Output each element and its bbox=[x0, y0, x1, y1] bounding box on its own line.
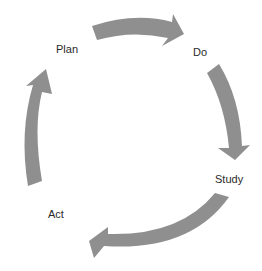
cycle-arrows bbox=[0, 0, 262, 271]
stage-label-act: Act bbox=[48, 208, 64, 220]
arrow-act-to-plan bbox=[24, 69, 52, 186]
stage-label-do: Do bbox=[193, 46, 207, 58]
stage-label-plan: Plan bbox=[56, 43, 78, 55]
stage-label-study: Study bbox=[215, 173, 243, 185]
arrow-do-to-study bbox=[207, 64, 250, 160]
arrow-study-to-act bbox=[89, 193, 229, 258]
pdsa-cycle-diagram: Plan Do Study Act bbox=[0, 0, 262, 271]
arrow-plan-to-do bbox=[92, 14, 184, 46]
